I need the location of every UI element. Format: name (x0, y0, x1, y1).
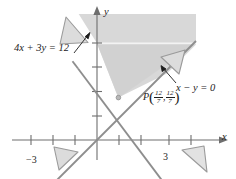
arrowhead-4x3y-lower-right (182, 146, 207, 172)
intersection-point-marker (116, 95, 121, 100)
arrowhead-xy-lower-left (54, 147, 78, 170)
y-axis-arrowhead (93, 6, 100, 15)
x-tick-label-neg3: −3 (26, 155, 37, 165)
point-y-fraction: 127 (166, 90, 175, 106)
label-line-4x-3y-12: 4x + 3y = 12 (14, 43, 69, 54)
x-axis-label: x (222, 132, 227, 143)
y-axis-label: y (104, 7, 109, 18)
x-tick-label-3: 3 (163, 152, 168, 162)
line-4x-plus-3y-equals-12-upper (73, 61, 79, 68)
intersection-point-label: P(127,127) (143, 90, 180, 106)
point-x-fraction: 127 (154, 90, 163, 106)
graph-figure: 4x + 3y = 12 x − y = 0 y x −3 3 P(127,12… (0, 0, 236, 179)
label-line-x-minus-y: x − y = 0 (176, 83, 215, 94)
point-paren-close: ) (175, 89, 180, 105)
